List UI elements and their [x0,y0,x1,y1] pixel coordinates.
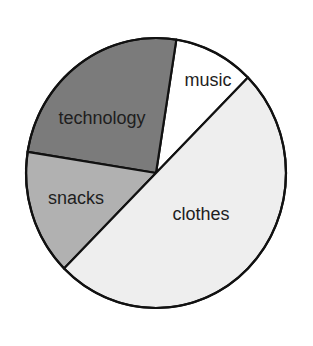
slice-label-technology: technology [58,108,145,128]
slice-label-music: music [184,70,231,90]
slice-label-clothes: clothes [172,204,229,224]
slice-label-snacks: snacks [48,188,104,208]
pie-slices [26,38,286,308]
pie-chart: music technology snacks clothes [0,0,313,346]
pie-slice-technology [28,38,177,173]
